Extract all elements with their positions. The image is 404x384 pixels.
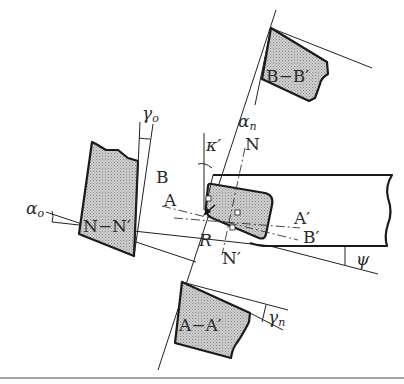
label-alpha-o: αo xyxy=(26,198,44,220)
label-a: A xyxy=(163,190,177,210)
right-angle-marker-center xyxy=(235,210,240,215)
section-nn-shape xyxy=(79,142,138,256)
tool-geometry-diagram: B−B′ αn N κ′ γo B A αo N−N′ R N′ A′ B′ ψ… xyxy=(0,0,404,384)
label-gamma-n: γn xyxy=(268,307,285,329)
label-alpha-n: αn xyxy=(238,111,257,133)
right-angle-marker-a xyxy=(206,196,211,201)
label-kappa-prime: κ′ xyxy=(205,135,221,155)
label-psi: ψ xyxy=(356,249,370,269)
label-a-prime: A′ xyxy=(293,208,310,228)
label-r: R xyxy=(198,230,212,250)
gamma-n-angle-tick xyxy=(262,305,266,322)
section-bb-shape xyxy=(262,28,328,101)
label-a-aprime: A−A′ xyxy=(178,315,222,335)
label-n-nprime: N−N′ xyxy=(83,216,131,236)
label-b-bprime: B−B′ xyxy=(266,66,309,86)
label-n: N xyxy=(245,134,260,154)
label-b: B xyxy=(156,167,169,187)
label-gamma-o: γo xyxy=(142,103,159,125)
right-angle-marker-n xyxy=(230,225,235,230)
label-n-prime: N′ xyxy=(222,248,241,268)
kappa-prime-arc xyxy=(198,164,212,169)
gamma-o-arc xyxy=(139,138,150,139)
label-b-prime: B′ xyxy=(303,227,319,247)
alpha-o-arc xyxy=(52,211,53,222)
